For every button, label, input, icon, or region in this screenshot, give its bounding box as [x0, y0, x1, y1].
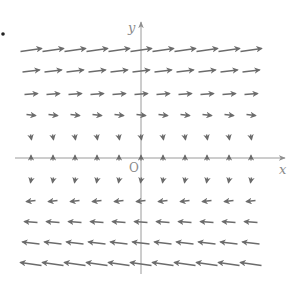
vector-arrow [251, 135, 252, 140]
vector-arrow [177, 70, 194, 72]
vector-arrow [49, 115, 58, 116]
vector-arrow [221, 242, 238, 244]
vector-arrow [163, 135, 164, 140]
vector-arrow [89, 70, 106, 72]
vector-arrow [53, 135, 54, 140]
vector-arrow [229, 135, 230, 140]
vector-arrow [65, 263, 86, 266]
vector-arrow [197, 263, 218, 266]
vector-arrow [197, 49, 218, 52]
vector-arrow [243, 70, 260, 72]
vector-arrow [135, 222, 148, 223]
vector-arrow [113, 222, 126, 223]
vector-arrow [135, 94, 148, 95]
vector-arrow [97, 178, 98, 183]
vector-arrow [251, 178, 252, 183]
vector-arrow [53, 178, 54, 183]
vector-arrow [163, 178, 164, 183]
vector-arrow [49, 201, 58, 202]
vector-arrow [157, 222, 170, 223]
vector-arrow [179, 94, 192, 95]
vector-arrow [201, 94, 214, 95]
vector-arrow [75, 135, 76, 140]
vector-arrow [247, 115, 256, 116]
vector-arrow [155, 70, 172, 72]
vector-arrow [175, 263, 196, 266]
vector-arrow [47, 94, 60, 95]
vector-arrow [157, 94, 170, 95]
vector-arrow [207, 135, 208, 140]
vector-arrow [137, 201, 146, 202]
vector-arrow [47, 222, 60, 223]
vector-arrow [241, 263, 262, 266]
axes: x y O [15, 20, 287, 274]
vector-arrow [225, 115, 234, 116]
vector-arrow [69, 222, 82, 223]
vector-arrow [177, 242, 194, 244]
vector-arrow [115, 115, 124, 116]
vector-arrow [87, 49, 108, 52]
vector-arrow [219, 263, 240, 266]
vector-arrow [27, 201, 36, 202]
vector-arrow [229, 178, 230, 183]
vector-arrow [109, 49, 130, 52]
vector-arrow [111, 70, 128, 72]
vector-arrow [45, 242, 62, 244]
bullet-dot [1, 32, 5, 36]
vector-arrow [201, 222, 214, 223]
vector-arrow [153, 263, 174, 266]
vector-arrow [31, 135, 32, 140]
x-axis-label: x [279, 162, 287, 177]
vector-arrow [113, 94, 126, 95]
vector-arrow [181, 115, 190, 116]
vector-arrow [23, 242, 40, 244]
vector-arrow [91, 94, 104, 95]
vector-arrow [243, 242, 260, 244]
vector-arrow [21, 263, 42, 266]
vector-arrow [115, 201, 124, 202]
vector-arrow [203, 115, 212, 116]
vector-arrow [225, 201, 234, 202]
vector-arrow [65, 49, 86, 52]
vector-arrow [75, 178, 76, 183]
vector-arrow [247, 201, 256, 202]
vector-arrow [185, 178, 186, 183]
vector-arrow [245, 222, 258, 223]
vector-arrow [245, 94, 258, 95]
vector-arrow [71, 115, 80, 116]
vector-arrow [199, 242, 216, 244]
vector-arrow [87, 263, 108, 266]
vector-arrow [43, 263, 64, 266]
vector-arrow [93, 115, 102, 116]
vector-arrow [137, 115, 146, 116]
vector-arrow [43, 49, 64, 52]
vector-arrow [199, 70, 216, 72]
y-axis-label: y [127, 20, 136, 35]
vector-arrow [179, 222, 192, 223]
vector-arrow [159, 201, 168, 202]
vector-arrow [155, 242, 172, 244]
vector-arrow [159, 115, 168, 116]
vector-arrow [45, 70, 62, 72]
vector-arrow [223, 94, 236, 95]
vector-arrow [221, 70, 238, 72]
vector-arrow [31, 178, 32, 183]
vector-arrow [21, 49, 42, 52]
vector-arrow [67, 70, 84, 72]
vector-arrow [91, 222, 104, 223]
origin-label: O [129, 161, 139, 175]
vector-arrow [67, 242, 84, 244]
vector-arrow [223, 222, 236, 223]
vector-arrow [153, 49, 174, 52]
vector-arrow [25, 222, 38, 223]
vector-arrow [27, 115, 36, 116]
vector-arrow [207, 178, 208, 183]
vector-arrow [89, 242, 106, 244]
vector-arrow [241, 49, 262, 52]
vector-arrow [203, 201, 212, 202]
vector-arrow [181, 201, 190, 202]
vector-arrow [111, 242, 128, 244]
vector-arrow [93, 201, 102, 202]
vector-arrow [109, 263, 130, 266]
vector-arrow [119, 135, 120, 140]
